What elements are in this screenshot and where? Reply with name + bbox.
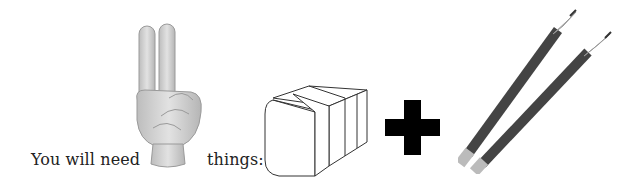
plus-icon [385,100,440,155]
two-fingers-hand-icon [131,20,207,170]
eraser-icon [263,70,373,182]
sentence-end: things: [207,150,264,169]
two-pencils-icon [458,4,616,174]
sentence-start: You will need [31,150,140,169]
